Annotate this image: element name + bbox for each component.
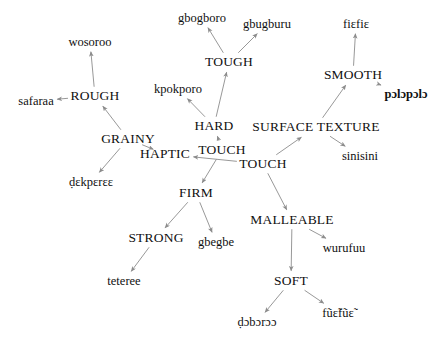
graph-node-rough[interactable]: ROUGH — [70, 89, 119, 103]
graph-node-haptic[interactable]: HAPTIC — [140, 147, 190, 161]
graph-node-soft[interactable]: SOFT — [274, 274, 308, 288]
graph-node-fiefie[interactable]: fiɛfiɛ — [343, 18, 369, 31]
graph-node-label: safaraa — [18, 94, 53, 108]
graph-edge-grainy-to-rough — [103, 106, 121, 130]
graph-edge-firm-to-gbegbe — [200, 202, 212, 232]
graph-edge-touch_center-to-hard — [217, 136, 219, 141]
graph-node-label: TOUGH — [205, 54, 253, 69]
graph-node-gbegbe[interactable]: gbegbe — [198, 236, 234, 249]
graph-node-strong[interactable]: STRONG — [128, 231, 183, 245]
graph-node-label: HARD — [194, 118, 233, 133]
graph-edge-tough-to-gbugburu — [238, 34, 257, 53]
graph-node-label: gbegbe — [198, 235, 234, 249]
graph-node-gbugburu[interactable]: gbugburu — [243, 18, 291, 31]
graph-node-kpokporo[interactable]: kpokporo — [154, 83, 202, 96]
edge-layer — [0, 0, 442, 340]
graph-edge-smooth-to-fiefie — [354, 34, 356, 66]
graph-edge-touch_lower-to-malleable — [268, 173, 287, 210]
graph-node-label: ḍɛkpɛrɛɛ — [69, 175, 113, 189]
graph-node-label: gbogboro — [178, 11, 226, 25]
graph-node-teteree[interactable]: teteree — [107, 275, 140, 288]
graph-node-doboroo[interactable]: ḍɔbɔrɔɔ — [238, 316, 277, 329]
graph-edge-hard-to-tough — [216, 72, 226, 117]
graph-edge-touch_center-to-firm — [202, 159, 216, 183]
graph-node-touch_lower[interactable]: TOUCH — [239, 157, 286, 171]
graph-edge-soft-to-doboroo — [265, 290, 283, 312]
graph-node-label: sinisini — [342, 149, 378, 163]
graph-edge-touch_lower-to-surface_texture — [276, 137, 301, 155]
graph-node-grainy[interactable]: GRAINY — [101, 132, 155, 146]
graph-node-label: fũɛ̃fũɛ̃ — [322, 306, 353, 320]
graph-edge-surface_texture-to-sinisini — [330, 136, 345, 146]
graph-node-label: ḍɔbɔrɔɔ — [238, 315, 277, 329]
graph-node-polopolo[interactable]: pɔlɔpɔlɔ — [384, 88, 427, 101]
graph-node-sinisini[interactable]: sinisini — [342, 150, 378, 163]
graph-node-malleable[interactable]: MALLEABLE — [250, 213, 334, 227]
graph-node-wurufuu[interactable]: wurufuu — [323, 242, 365, 255]
graph-node-label: STRONG — [128, 230, 183, 245]
graph-node-safaraa[interactable]: safaraa — [18, 95, 53, 108]
graph-node-wosoroo[interactable]: wosoroo — [68, 36, 111, 49]
graph-node-label: TOUCH — [239, 156, 286, 171]
graph-node-label: GRAINY — [101, 131, 155, 146]
graph-node-firm[interactable]: FIRM — [179, 186, 213, 200]
graph-node-dekperee[interactable]: ḍɛkpɛrɛɛ — [69, 176, 113, 189]
graph-node-touch_center[interactable]: TOUCH — [198, 143, 245, 157]
graph-node-smooth[interactable]: SMOOTH — [324, 68, 382, 82]
graph-node-label: FIRM — [179, 185, 213, 200]
graph-node-fuefue[interactable]: fũɛ̃fũɛ̃ — [322, 307, 353, 320]
semantic-network-diagram: wosoroogbogborogbugburufiɛfiɛTOUGHSMOOTH… — [0, 0, 442, 340]
graph-edge-soft-to-fuefue — [305, 290, 324, 303]
graph-edge-surface_texture-to-smooth — [323, 85, 346, 118]
graph-node-hard[interactable]: HARD — [194, 119, 233, 133]
graph-node-label: teteree — [107, 274, 140, 288]
graph-edge-malleable-to-wurufuu — [309, 229, 326, 238]
graph-node-tough[interactable]: TOUGH — [205, 55, 253, 69]
graph-node-label: SOFT — [274, 273, 308, 288]
graph-node-label: ROUGH — [70, 88, 119, 103]
graph-edge-hard-to-kpokporo — [187, 99, 205, 117]
graph-edge-strong-to-teteree — [131, 247, 149, 271]
graph-node-label: wosoroo — [68, 35, 111, 49]
graph-node-label: MALLEABLE — [250, 212, 334, 227]
graph-node-label: fiɛfiɛ — [343, 17, 369, 31]
graph-edge-malleable-to-soft — [291, 229, 292, 271]
graph-node-label: gbugburu — [243, 17, 291, 31]
graph-edge-rough-to-safaraa — [57, 98, 68, 99]
graph-edge-smooth-to-polopolo — [379, 84, 381, 85]
graph-edge-tough-to-gbogboro — [208, 28, 223, 53]
graph-node-surface_texture[interactable]: SURFACE TEXTURE — [252, 120, 379, 134]
graph-node-gbogboro[interactable]: gbogboro — [178, 12, 226, 25]
graph-node-label: kpokporo — [154, 82, 202, 96]
graph-edge-firm-to-strong — [165, 202, 188, 228]
graph-node-label: TOUCH — [198, 142, 245, 157]
graph-node-label: SURFACE TEXTURE — [252, 119, 379, 134]
graph-node-label: HAPTIC — [140, 146, 190, 161]
graph-edge-rough-to-wosoroo — [91, 52, 94, 87]
graph-node-label: pɔlɔpɔlɔ — [384, 87, 427, 101]
graph-node-label: wurufuu — [323, 241, 365, 255]
graph-edge-grainy-to-dekperee — [99, 148, 120, 172]
graph-node-label: SMOOTH — [324, 67, 382, 82]
